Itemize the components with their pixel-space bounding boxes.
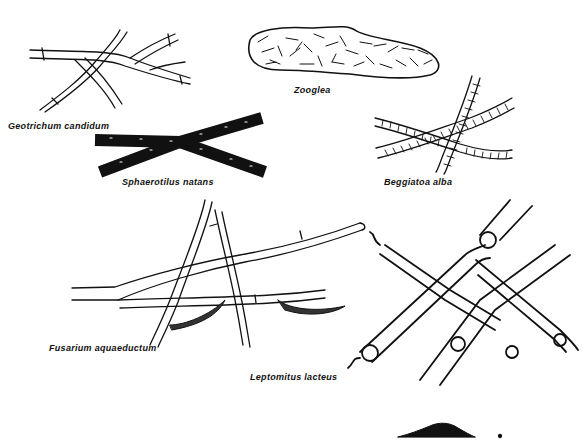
label-sphaerotilus-natans: Sphaerotilus natans bbox=[122, 177, 214, 187]
partial-colony-drawing bbox=[398, 423, 502, 437]
sphaerotilus-natans-drawing bbox=[95, 118, 265, 172]
fusarium-aquaeductum-drawing bbox=[72, 200, 365, 347]
label-zooglea: Zooglea bbox=[294, 85, 331, 95]
zooglea-drawing bbox=[249, 27, 439, 78]
leptomitus-lacteus-drawing bbox=[348, 200, 578, 385]
beggiatoa-alba-drawing bbox=[375, 76, 514, 174]
label-beggiatoa-alba: Beggiatoa alba bbox=[384, 177, 452, 187]
label-geotrichum-candidum: Geotrichum candidum bbox=[8, 121, 109, 131]
organism-illustration-plate: Geotrichum candidum Zooglea Sphaerotilus… bbox=[0, 0, 584, 441]
label-fusarium-aquaeductum: Fusarium aquaeductum bbox=[49, 343, 157, 353]
label-leptomitus-lacteus: Leptomitus lacteus bbox=[250, 372, 337, 382]
geotrichum-candidum-drawing bbox=[30, 30, 190, 112]
